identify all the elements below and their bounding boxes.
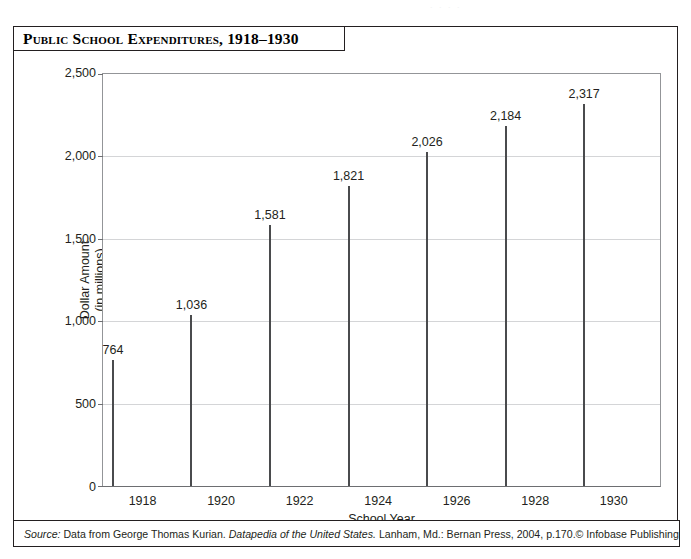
bar-value-1920: 1,036 [176,298,207,312]
plot-area: 764 1918 1,036 1920 1,581 1922 1,821 [102,73,661,487]
bar-slot-1930: 2,317 1930 [583,74,644,486]
bar-value-1930: 2,317 [568,87,599,101]
bar-value-1928: 2,184 [490,109,521,123]
tick-500 [98,404,103,405]
bar-1930[interactable]: 2,317 [583,104,585,486]
tick-1500 [98,239,103,240]
bar-slot-1924: 1,821 1924 [348,74,409,486]
source-text-before: Data from George Thomas Kurian. [61,528,229,540]
source-work-title: Datapedia of the United States. [229,528,376,540]
chart-figure: Public School Expenditures, 1918–1930 0 … [13,26,678,547]
bar-1920[interactable]: 1,036 [190,315,192,486]
scan-artifact-text: . . . . [430,0,462,10]
x-tick-label-1924: 1924 [364,494,392,508]
x-tick-label-1920: 1920 [207,494,235,508]
tick-2500 [98,74,103,75]
bar-1918[interactable]: 764 [112,360,114,486]
bar-slot-1922: 1,581 1922 [269,74,330,486]
source-bar: Source: Data from George Thomas Kurian. … [13,520,680,547]
bar-value-1926: 2,026 [411,135,442,149]
x-tick-label-1928: 1928 [521,494,549,508]
y-axis-title-line1: Dollar Amount [78,241,92,320]
x-tick-label-1922: 1922 [286,494,314,508]
y-axis-title-wrapper: Dollar Amount (in millions) [70,73,92,487]
bar-slot-1920: 1,036 1920 [190,74,251,486]
tick-2000 [98,156,103,157]
chart-title: Public School Expenditures, 1918–1930 [23,30,299,48]
source-note: Source: Data from George Thomas Kurian. … [24,528,576,540]
x-tick-label-1926: 1926 [443,494,471,508]
plot-wrapper: 0 500 1,000 1,500 2,000 2,500 Dollar Amo… [14,52,677,546]
bar-1924[interactable]: 1,821 [348,186,350,486]
source-prefix: Source: [24,528,61,540]
bar-1928[interactable]: 2,184 [505,126,507,486]
x-tick-label-1918: 1918 [129,494,157,508]
bar-slot-1918: 764 1918 [112,74,173,486]
tick-1000 [98,321,103,322]
x-tick-label-1930: 1930 [600,494,628,508]
tick-0 [98,486,103,487]
bar-slot-1928: 2,184 1928 [505,74,566,486]
bar-value-1922: 1,581 [254,208,285,222]
bar-slot-1926: 2,026 1926 [426,74,487,486]
bar-1922[interactable]: 1,581 [269,225,271,486]
copyright-notice: © Infobase Publishing [576,528,679,540]
bar-value-1918: 764 [102,343,123,357]
bar-value-1924: 1,821 [333,169,364,183]
chart-title-box: Public School Expenditures, 1918–1930 [13,26,345,51]
bar-1926[interactable]: 2,026 [426,152,428,486]
source-text-after: Lanham, Md.: Bernan Press, 2004, p.170. [376,528,576,540]
